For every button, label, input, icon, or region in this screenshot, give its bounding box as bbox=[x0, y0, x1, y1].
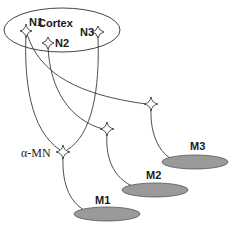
muscle-m1 bbox=[74, 207, 140, 221]
alpha-mn-text: α-MN bbox=[21, 146, 51, 160]
wire-interneuron-to-m2 bbox=[107, 134, 140, 189]
alpha-motor-neuron-icon bbox=[56, 145, 70, 159]
interneuron-m2-icon bbox=[100, 122, 114, 136]
cortex-label: Cortex bbox=[38, 17, 74, 29]
neuron-n2-icon bbox=[42, 37, 54, 49]
alpha-motor-neuron-label: α-MN bbox=[21, 146, 51, 160]
interneuron-m3-icon bbox=[144, 97, 158, 111]
wire-alpha-mn-to-m1 bbox=[63, 157, 90, 213]
neurons: N1 N2 N3 α-MN bbox=[20, 16, 158, 160]
muscle-m1-label: M1 bbox=[95, 194, 110, 206]
neuron-n1-label: N1 bbox=[29, 16, 43, 28]
muscle-m2-label: M2 bbox=[146, 169, 161, 181]
wire-n2-to-interneuron-m2 bbox=[48, 47, 103, 129]
neuron-n3-label: N3 bbox=[80, 26, 94, 38]
muscle-m3 bbox=[162, 155, 228, 169]
muscle-m3-label: M3 bbox=[190, 140, 205, 152]
muscles: M3 M2 M1 bbox=[74, 140, 228, 221]
neural-diagram: Cortex M3 M2 M1 N1 N2 N3 bbox=[0, 0, 241, 232]
wire-interneuron-to-m3 bbox=[151, 109, 180, 162]
muscle-m2 bbox=[122, 183, 188, 197]
neuron-n2-label: N2 bbox=[55, 37, 69, 49]
